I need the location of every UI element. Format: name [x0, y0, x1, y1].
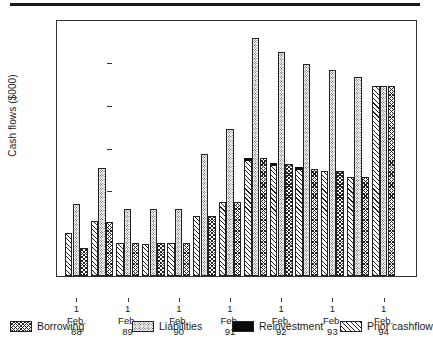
legend-item-liabilities: Liabilities	[132, 320, 202, 332]
bar-borrowing	[132, 243, 139, 276]
bar-liabilities	[73, 204, 80, 276]
bar-liabilities	[175, 209, 182, 276]
bar-borrowing	[388, 86, 395, 276]
legend-swatch-dotted-icon	[132, 321, 154, 332]
bar-prior-cashflow	[372, 86, 379, 276]
bar-liabilities	[150, 209, 157, 276]
x-tick-mark	[281, 298, 282, 302]
x-tick-mark	[384, 298, 385, 302]
plot-area: 2000400060008000100001200014000 1 Feb. 8…	[56, 20, 417, 277]
bar-prior-cashflow	[116, 243, 123, 276]
bar-liabilities	[329, 70, 336, 276]
y-tick-mark	[107, 149, 112, 150]
x-tick-mark	[230, 298, 231, 302]
y-tick-mark	[107, 63, 112, 64]
bar-borrowing	[106, 222, 113, 276]
legend-label: Prior cashflow	[367, 320, 433, 332]
bar-liabilities	[380, 86, 387, 276]
y-tick-mark	[107, 191, 112, 192]
bar-prior-cashflow	[65, 233, 72, 276]
legend-swatch-solid-black-icon	[232, 321, 254, 332]
bar-prior-cashflow	[270, 165, 277, 276]
bar-prior-cashflow	[347, 177, 354, 276]
page-top-rule	[10, 3, 420, 6]
legend-item-reinvestment: Reinvestment	[232, 320, 323, 332]
bar-prior-cashflow	[142, 244, 149, 276]
bar-borrowing	[285, 164, 292, 276]
bar-borrowing	[311, 169, 318, 276]
x-tick-mark	[128, 298, 129, 302]
bar-liabilities	[278, 52, 285, 276]
legend-item-prior-cashflow: Prior cashflow	[340, 320, 433, 332]
bar-borrowing	[260, 158, 267, 276]
bar-prior-cashflow	[219, 202, 226, 276]
x-tick-mark	[76, 298, 77, 302]
y-axis-title: Cash flows ($000)	[7, 36, 18, 196]
legend-label: Reinvestment	[259, 320, 323, 332]
bar-borrowing	[234, 202, 241, 276]
bar-prior-cashflow	[193, 216, 200, 276]
bar-borrowing	[208, 216, 215, 276]
legend-label: Liabilities	[159, 320, 202, 332]
bar-liabilities	[124, 209, 131, 276]
bar-borrowing	[80, 248, 87, 276]
bar-prior-cashflow	[91, 221, 98, 276]
bar-liabilities	[201, 154, 208, 276]
bar-reinvestment-cap	[270, 163, 277, 166]
bar-borrowing	[336, 171, 343, 276]
x-tick-mark	[179, 298, 180, 302]
bar-liabilities	[354, 77, 361, 276]
bar-liabilities	[98, 168, 105, 276]
bar-borrowing	[157, 243, 164, 276]
legend-item-borrowing: Borrowing	[10, 320, 84, 332]
bar-prior-cashflow	[244, 160, 251, 276]
bar-prior-cashflow	[321, 171, 328, 276]
legend-swatch-cross-hatch-icon	[10, 321, 32, 332]
bar-liabilities	[252, 38, 259, 276]
chart-legend: BorrowingLiabilitiesReinvestmentPrior ca…	[10, 320, 420, 338]
bar-borrowing	[362, 177, 369, 276]
legend-swatch-diagonal-hatch-icon	[340, 321, 362, 332]
y-tick-mark	[107, 106, 112, 107]
x-tick-mark	[332, 298, 333, 302]
legend-label: Borrowing	[37, 320, 84, 332]
bar-liabilities	[303, 64, 310, 276]
bar-prior-cashflow	[167, 243, 174, 276]
bar-reinvestment-cap	[244, 158, 251, 161]
bar-borrowing	[183, 243, 190, 276]
bar-reinvestment-cap	[295, 167, 302, 170]
bar-prior-cashflow	[295, 169, 302, 276]
bar-liabilities	[226, 129, 233, 276]
